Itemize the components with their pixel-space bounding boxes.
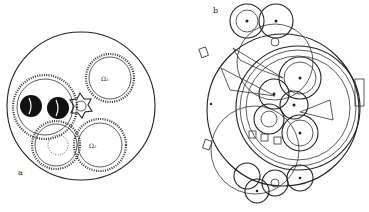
panel-a-label: a <box>18 168 23 177</box>
marker <box>274 137 281 144</box>
gear-diagram: Ω₂ Ω₂ a b <box>0 0 369 212</box>
marker <box>261 134 268 141</box>
sector <box>233 48 283 78</box>
gear <box>35 124 77 166</box>
gear-teeth <box>86 54 134 102</box>
pinion-hub <box>76 101 86 111</box>
panel-b-label: b <box>213 6 218 15</box>
gear-mark: Ω₂ <box>101 75 109 82</box>
sector <box>300 100 333 120</box>
panel-b: b <box>199 4 364 203</box>
gear <box>78 123 122 167</box>
lug <box>199 47 209 58</box>
panel-a: Ω₂ Ω₂ a <box>7 32 155 180</box>
gear-inner <box>261 111 277 127</box>
outer-ring <box>207 34 359 186</box>
star-pinion <box>70 93 92 118</box>
main-plate-inner <box>240 50 356 166</box>
gear <box>89 57 131 99</box>
gear-mark: Ω₂ <box>89 142 97 149</box>
main-plate-inner2 <box>246 56 350 160</box>
gear-teeth <box>74 119 126 171</box>
gear-teeth <box>32 121 80 169</box>
pivot <box>271 38 279 46</box>
